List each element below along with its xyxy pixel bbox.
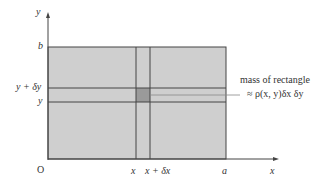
annotation-line-1: mass of rectangle	[240, 74, 310, 85]
y-axis-label: y	[36, 6, 40, 17]
small-rectangle	[136, 88, 150, 102]
x-axis-label: x	[270, 165, 274, 176]
y-tick-b: b	[38, 40, 43, 51]
y-tick-y-plus-dy: y + δy	[16, 81, 41, 92]
region-rectangle	[48, 47, 226, 159]
x-tick-a: a	[222, 165, 227, 176]
origin-label: O	[37, 164, 44, 175]
x-tick-x: x	[131, 165, 135, 176]
x-axis-arrow-icon	[273, 157, 279, 161]
y-tick-y: y	[38, 95, 42, 106]
x-tick-x-plus-dx: x + δx	[145, 165, 170, 176]
annotation-line-2: ≈ ρ(x, y)δx δy	[247, 88, 304, 99]
y-axis-arrow-icon	[46, 12, 50, 18]
